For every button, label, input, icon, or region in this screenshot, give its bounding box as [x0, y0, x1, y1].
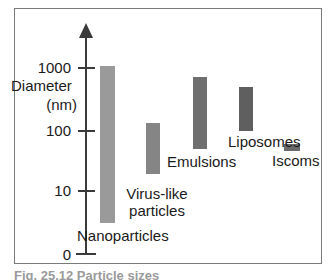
bar-label-virus-like-particles: Virus-like particles — [122, 185, 192, 219]
y-axis-title: Diameter (nm) — [7, 76, 79, 114]
bar-liposomes — [239, 87, 253, 131]
bar-virus-like-particles — [146, 123, 160, 174]
y-tick-label-0: 0 — [17, 247, 71, 262]
bar-nanoparticles — [100, 66, 115, 223]
y-tick-label-100: 100 — [17, 123, 71, 138]
y-tick-label-10: 10 — [17, 183, 71, 198]
figure-caption: Fig. 25.12 Particle sizes — [14, 268, 320, 280]
y-tick-label-1000: 1000 — [17, 60, 71, 75]
y-tick-10 — [78, 190, 95, 192]
y-axis-base-tick — [76, 253, 96, 255]
y-axis-title-line2: (nm) — [7, 95, 79, 114]
bar-label-nanoparticles: Nanoparticles — [77, 227, 169, 244]
bar-label-virus-like-line1: Virus-like — [122, 185, 192, 202]
bar-label-emulsions: Emulsions — [167, 153, 236, 170]
y-axis-title-line1: Diameter — [7, 76, 79, 95]
bar-label-iscoms: Iscoms — [272, 152, 320, 169]
bar-label-virus-like-line2: particles — [122, 202, 192, 219]
bar-emulsions — [193, 77, 207, 149]
figure-panel: 1000 100 10 0 Diameter (nm) Nanoparticle… — [0, 0, 334, 280]
bar-label-liposomes: Liposomes — [228, 133, 301, 150]
y-tick-100 — [78, 130, 95, 132]
chart-frame: 1000 100 10 0 Diameter (nm) Nanoparticle… — [14, 8, 322, 264]
y-tick-1000 — [78, 67, 95, 69]
plot-area: 1000 100 10 0 Diameter (nm) Nanoparticle… — [15, 9, 323, 265]
